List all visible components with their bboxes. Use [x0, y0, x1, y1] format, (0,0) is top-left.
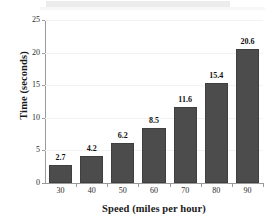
bar	[49, 165, 72, 183]
x-axis-tick-label: 70	[173, 187, 197, 195]
y-axis-tick-label: 15	[24, 81, 40, 89]
plot-area: 2.74.26.28.511.615.420.6	[45, 20, 263, 183]
y-axis-tick-mark	[42, 85, 45, 86]
x-axis-tick-label: 30	[49, 187, 73, 195]
x-axis-tick-mark	[201, 184, 202, 187]
x-axis-tick-mark	[170, 184, 171, 187]
y-axis-tick-label: 10	[24, 114, 40, 122]
gridline	[45, 20, 263, 21]
y-axis-tick-label: 0	[24, 179, 40, 187]
x-axis-tick-label: 60	[142, 187, 166, 195]
y-axis-tick-mark	[42, 150, 45, 151]
bar-value-label: 4.2	[74, 145, 109, 153]
bar	[80, 156, 103, 183]
bar-value-label: 11.6	[168, 96, 203, 104]
bar	[142, 128, 165, 183]
x-axis-tick-mark	[138, 184, 139, 187]
bar-value-label: 8.5	[136, 117, 171, 125]
y-axis-tick-label: 25	[24, 16, 40, 24]
bar-value-label: 6.2	[105, 132, 140, 140]
y-axis-tick-label: 20	[24, 49, 40, 57]
x-axis-tick-mark	[232, 184, 233, 187]
x-axis-tick-label: 40	[80, 187, 104, 195]
x-axis-title: Speed (miles per hour)	[45, 203, 263, 214]
top-banner-strip-secondary	[40, 7, 265, 10]
y-axis-tick-mark	[42, 20, 45, 21]
y-axis-tick-label: 5	[24, 146, 40, 154]
x-axis-tick-mark	[76, 184, 77, 187]
bar	[236, 49, 259, 183]
x-axis-tick-label: 90	[235, 187, 259, 195]
gridline	[45, 53, 263, 54]
bar	[111, 143, 134, 183]
bar	[174, 107, 197, 183]
bar-value-label: 2.7	[43, 154, 78, 162]
bar-value-label: 15.4	[199, 72, 234, 80]
y-axis-tick-mark	[42, 53, 45, 54]
x-axis-tick-mark	[263, 184, 264, 187]
x-axis-tick-label: 50	[111, 187, 135, 195]
bar-chart-figure: Time (seconds) Speed (miles per hour) 2.…	[0, 0, 277, 222]
gridline	[45, 85, 263, 86]
x-axis-tick-mark	[107, 184, 108, 187]
y-axis-tick-mark	[42, 183, 45, 184]
bar	[205, 83, 228, 183]
y-axis-tick-mark	[42, 118, 45, 119]
x-axis-tick-label: 80	[204, 187, 228, 195]
bar-value-label: 20.6	[230, 38, 265, 46]
